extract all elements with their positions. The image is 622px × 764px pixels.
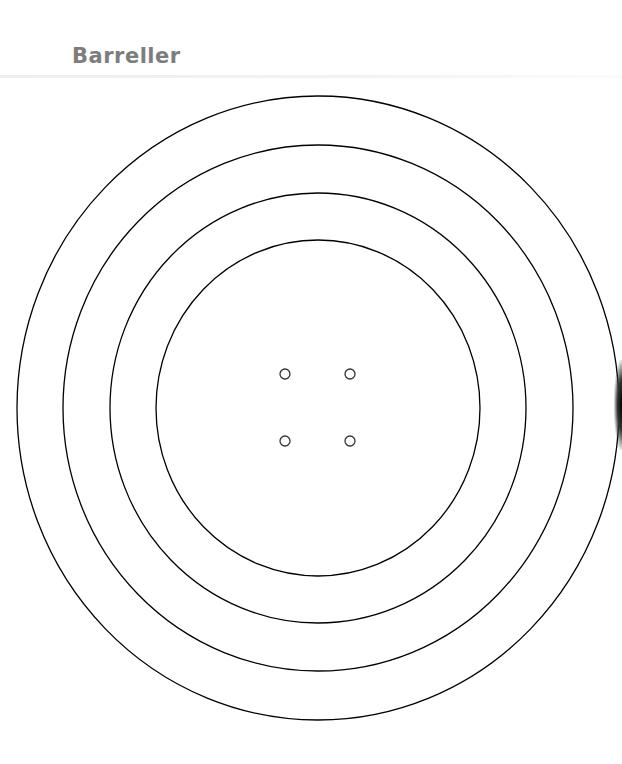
edge-shadow (614, 360, 622, 450)
hole-4 (345, 436, 355, 446)
hole-2 (345, 369, 355, 379)
ring-1 (17, 96, 619, 720)
hole-1 (280, 369, 290, 379)
ring-3 (110, 193, 526, 623)
concentric-rings-diagram (0, 0, 622, 764)
holes-group (280, 369, 355, 446)
ring-4 (156, 240, 480, 576)
ring-2 (63, 145, 573, 671)
rings-group (17, 96, 619, 720)
hole-3 (280, 436, 290, 446)
